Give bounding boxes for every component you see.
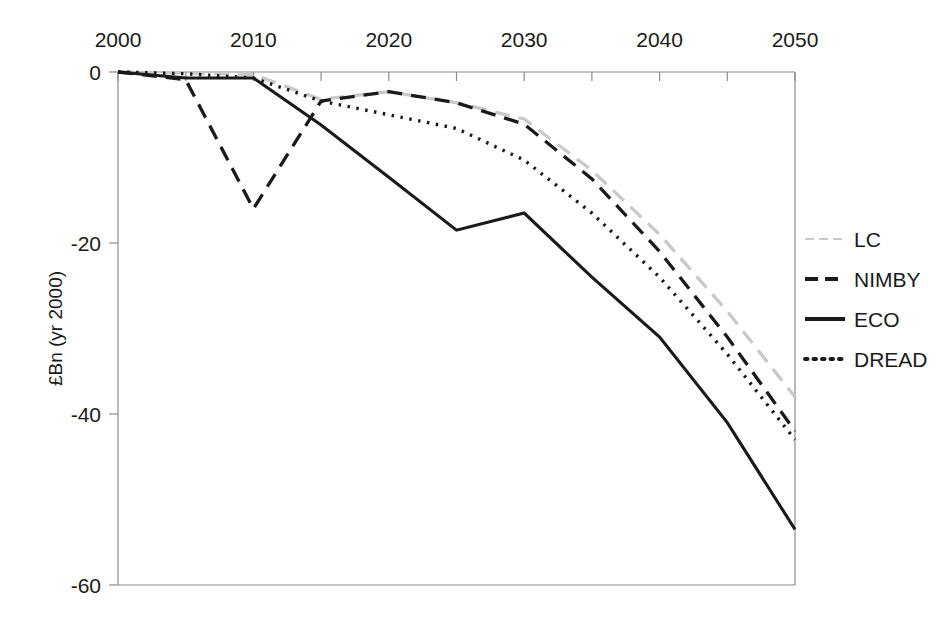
legend-label-lc: LC xyxy=(854,228,881,251)
legend-item-nimby: NIMBY xyxy=(805,268,921,291)
plot-axes xyxy=(118,72,795,585)
y-tick-label: -40 xyxy=(71,403,101,426)
series-line-dread xyxy=(118,72,795,440)
y-tick-label: -60 xyxy=(71,574,101,597)
series-line-lc xyxy=(118,72,795,397)
y-axis-ticks xyxy=(109,72,118,585)
x-tick-label: 2020 xyxy=(365,28,412,51)
y-tick-label: 0 xyxy=(89,61,101,84)
x-tick-label: 2030 xyxy=(501,28,548,51)
legend-label-nimby: NIMBY xyxy=(854,268,921,291)
y-tick-label: -20 xyxy=(71,232,101,255)
x-tick-label: 2050 xyxy=(772,28,819,51)
line-chart: 200020102020203020402050 0-20-40-60 £Bn … xyxy=(0,0,950,630)
x-tick-label: 2010 xyxy=(230,28,277,51)
chart-root: 200020102020203020402050 0-20-40-60 £Bn … xyxy=(0,0,950,630)
series-line-eco xyxy=(118,72,795,529)
y-axis-title: £Bn (yr 2000) xyxy=(45,271,66,386)
legend-item-eco: ECO xyxy=(805,308,900,331)
y-axis-tick-labels: 0-20-40-60 xyxy=(71,61,101,597)
series-line-nimby xyxy=(118,72,795,431)
legend-item-lc: LC xyxy=(805,228,881,251)
chart-legend: LCNIMBYECODREAD xyxy=(805,228,928,371)
legend-item-dread: DREAD xyxy=(805,348,928,371)
x-axis-tick-labels: 200020102020203020402050 xyxy=(95,28,819,51)
x-tick-label: 2040 xyxy=(636,28,683,51)
x-tick-label: 2000 xyxy=(95,28,142,51)
data-series-group xyxy=(118,72,795,529)
legend-label-dread: DREAD xyxy=(854,348,928,371)
legend-label-eco: ECO xyxy=(854,308,900,331)
